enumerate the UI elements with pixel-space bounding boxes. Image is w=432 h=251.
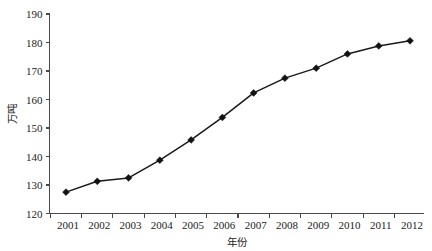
y-tick-label: 190 [26,8,43,20]
y-tick-label: 140 [26,151,43,163]
x-tick-label: 2001 [57,219,79,231]
y-tick-label: 160 [26,94,43,106]
x-tick-label: 2004 [151,219,174,231]
x-tick-label: 2008 [276,219,299,231]
x-tick-label: 2006 [213,219,236,231]
x-axis-title: 年份 [227,236,248,248]
y-axis-title: 万吨 [6,103,18,124]
y-tick-label: 120 [26,208,43,220]
y-tick-label: 130 [26,179,43,191]
x-tick-label: 2010 [338,219,361,231]
x-tick-label: 2012 [401,219,423,231]
x-tick-label: 2011 [370,219,392,231]
y-tick-label: 170 [26,65,43,77]
x-tick-label: 2002 [88,219,110,231]
y-tick-label: 180 [26,37,43,49]
x-tick-label: 2009 [307,219,330,231]
x-tick-label: 2005 [182,219,205,231]
y-tick-label: 150 [26,122,43,134]
line-chart: 120130140150160170180190 200120022003200… [0,0,432,251]
chart-canvas: 120130140150160170180190 200120022003200… [0,0,432,251]
x-tick-label: 2003 [120,219,143,231]
x-tick-label: 2007 [245,219,268,231]
